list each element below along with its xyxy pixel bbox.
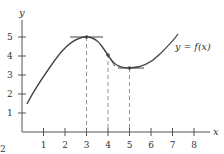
min-point	[128, 66, 132, 70]
svg-text:1: 1	[7, 108, 13, 118]
svg-text:5: 5	[127, 140, 133, 150]
svg-text:6: 6	[148, 140, 154, 150]
svg-text:7: 7	[170, 140, 176, 150]
svg-text:3: 3	[84, 140, 90, 150]
x-axis-label: x	[213, 126, 219, 137]
inflection-point	[106, 53, 110, 57]
drop-lines	[87, 37, 130, 132]
svg-text:3: 3	[7, 70, 13, 80]
y-tick-labels: 1 2 3 4 5	[7, 32, 13, 118]
svg-text:4: 4	[7, 51, 13, 61]
y-axis-label: y	[18, 7, 25, 18]
svg-text:2: 2	[7, 89, 13, 99]
corner-mark: 2	[0, 144, 6, 154]
svg-text:4: 4	[105, 140, 111, 150]
svg-text:2: 2	[62, 140, 68, 150]
function-graph: y x y = f(x) 2 1 2 3 4 5 1 2 3 4 5 6 7 8	[0, 0, 224, 154]
svg-text:8: 8	[191, 140, 197, 150]
max-point	[85, 35, 89, 39]
function-curve	[27, 34, 178, 104]
curve-label: y = f(x)	[174, 41, 211, 52]
x-tick-labels: 1 2 3 4 5 6 7 8	[41, 140, 198, 150]
svg-text:5: 5	[7, 32, 13, 42]
svg-text:1: 1	[41, 140, 47, 150]
